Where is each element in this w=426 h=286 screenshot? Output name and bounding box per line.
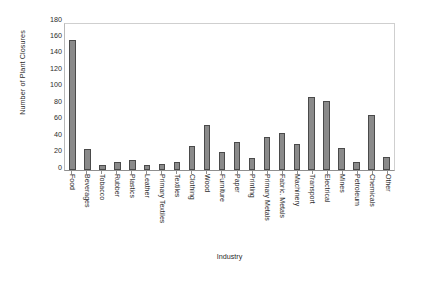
bar [99,165,106,169]
y-axis-tick-label: 100 [38,82,62,89]
x-axis-label-slot: Electrical [320,174,335,246]
x-axis-label-slot: Primary Metals [260,174,275,246]
y-axis-tick-label: 40 [38,131,62,138]
x-axis-category-label: Textiles [173,174,180,197]
bar-slot [274,24,289,170]
x-axis-label-slot: Machinery [290,174,305,246]
bar [69,40,76,169]
x-axis-label-slot: Primary Textiles [154,174,169,246]
x-axis-category-label: Mines [339,174,346,193]
x-axis-category-label: Wood [203,174,210,192]
x-axis-category-label: Primary Textiles [158,174,165,223]
bar [234,142,241,170]
bar [189,146,196,169]
x-axis-label-slot: Food [64,174,79,246]
bar [159,164,166,170]
x-axis-category-label: Plastics [128,174,135,198]
x-axis-label-slot: Mines [335,174,350,246]
y-axis-tick-labels: 180160140120100806040200 [38,19,62,171]
x-axis-category-label: Leather [143,174,150,198]
x-axis-category-label: Clothing [188,174,195,200]
bar-slot [95,24,110,170]
y-axis-tick-label: 140 [38,49,62,56]
x-axis-label-slot: Rubber [109,174,124,246]
x-axis-label-slot: Paper [230,174,245,246]
bar [219,152,226,169]
y-axis-tick-label: 120 [38,65,62,72]
bar [144,165,151,170]
x-axis-category-label: Furniture [218,174,225,202]
y-axis-tick-label: 80 [38,98,62,105]
x-axis-category-label: Beverages [83,174,90,207]
x-axis-label-slot: Printing [245,174,260,246]
bar [249,158,256,170]
x-axis-label-slot: Leather [139,174,154,246]
bar [353,162,360,169]
bar [114,162,121,169]
bar-slot [170,24,185,170]
bar-slot [215,24,230,170]
bar [294,144,301,169]
x-axis-category-label: Fabric. Metals [279,174,286,218]
bar [129,160,136,170]
bar-slot [259,24,274,170]
bar [368,115,375,169]
bar-slot [379,24,394,170]
bar-slot [289,24,304,170]
x-axis-category-label: Printing [249,174,256,198]
x-axis-label-slot: Beverages [79,174,94,246]
x-axis-label-slot: Chemicals [365,174,380,246]
plot-area [64,23,395,171]
x-axis-title: Industry [64,252,395,261]
y-axis-tick-label: 180 [38,16,62,23]
bar-slot [140,24,155,170]
x-axis-label-slot: Fabric. Metals [275,174,290,246]
x-axis-category-label: Tobacco [98,174,105,200]
bar [174,162,181,169]
x-axis-category-labels: FoodBeveragesTobaccoRubberPlasticsLeathe… [64,174,395,246]
x-axis-category-label: Chemicals [369,174,376,207]
bar-slot [319,24,334,170]
bar [338,148,345,169]
bar-slot [244,24,259,170]
x-axis-category-label: Other [384,174,391,192]
bar [204,125,211,169]
bar [84,149,91,170]
bar [323,101,330,169]
bar-slot [364,24,379,170]
bar-slot [185,24,200,170]
bar-slot [304,24,319,170]
x-axis-label-slot: Furniture [214,174,229,246]
bar [383,157,390,169]
x-axis-category-label: Primary Metals [264,174,271,221]
x-axis-category-label: Machinery [294,174,301,206]
bar-slot [349,24,364,170]
bars-layer [65,24,394,170]
y-axis-tick-label: 160 [38,32,62,39]
x-axis-label-slot: Petroleum [350,174,365,246]
y-axis-tick-label: 20 [38,147,62,154]
y-axis-tick-label: 0 [38,164,62,171]
x-axis-category-label: Paper [234,174,241,193]
x-axis-label-slot: Transport [305,174,320,246]
bar-slot [229,24,244,170]
y-axis-title: Number of Plant Closures [18,18,27,128]
x-axis-label-slot: Clothing [184,174,199,246]
bar [279,133,286,169]
bar-chart: Number of Plant Closures 180160140120100… [0,0,426,286]
bar-slot [80,24,95,170]
y-axis-tick-label: 60 [38,115,62,122]
bar-slot [110,24,125,170]
x-axis-label-slot: Wood [199,174,214,246]
x-axis-category-label: Food [68,174,75,190]
x-axis-category-label: Petroleum [354,174,361,206]
bar [264,137,271,170]
x-axis-label-slot: Textiles [169,174,184,246]
x-axis-category-label: Rubber [113,174,120,197]
bar-slot [65,24,80,170]
bar-slot [155,24,170,170]
bar-slot [125,24,140,170]
bar-slot [334,24,349,170]
x-axis-label-slot: Tobacco [94,174,109,246]
x-axis-category-label: Transport [309,174,316,204]
